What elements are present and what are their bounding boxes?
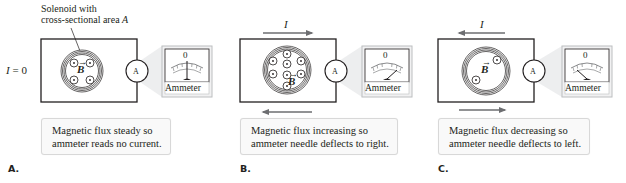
current-label-b: I bbox=[284, 19, 288, 30]
field-line-dot bbox=[86, 59, 94, 67]
panel-label-c: C. bbox=[438, 163, 449, 174]
current-label-c: I bbox=[480, 19, 484, 30]
meter-name-label: Ammeter bbox=[165, 83, 201, 94]
caption-line-2: ammeter reads no current. bbox=[52, 137, 170, 150]
caption-c: Magnetic flux decreasing so ammeter need… bbox=[438, 118, 590, 155]
solenoid bbox=[263, 46, 311, 94]
meter-name-label: Ammeter bbox=[565, 83, 601, 94]
current-zero-label: I = 0 bbox=[6, 65, 27, 76]
caption-line-1: Magnetic flux increasing so bbox=[251, 124, 397, 137]
ammeter-symbol-label: A bbox=[133, 66, 139, 77]
field-line-dot bbox=[70, 76, 78, 84]
caption-line-2: ammeter needle deflects to right. bbox=[251, 137, 397, 150]
annotation-line-2-text: cross-sectional area bbox=[41, 14, 122, 25]
diagram-canvas bbox=[0, 0, 626, 183]
area-variable: A bbox=[122, 14, 128, 25]
meter-zero-label: 0 bbox=[183, 50, 188, 61]
caption-b: Magnetic flux increasing so ammeter need… bbox=[240, 118, 398, 155]
solenoid-annotation: Solenoid with cross-sectional area A bbox=[41, 3, 128, 25]
meter-name-label: Ammeter bbox=[365, 83, 401, 94]
panel-label-a: A. bbox=[8, 163, 19, 174]
panel-c bbox=[438, 33, 612, 110]
ammeter-symbol-label: A bbox=[332, 66, 338, 77]
caption-line-1: Magnetic flux decreasing so bbox=[449, 124, 589, 137]
panel-b bbox=[240, 33, 412, 112]
meter-zero-label: 0 bbox=[583, 50, 588, 61]
meter-zero-label: 0 bbox=[383, 50, 388, 61]
caption-line-2: ammeter needle deflects to left. bbox=[449, 137, 589, 150]
field-vector-label-b: →B bbox=[288, 76, 295, 87]
caption-line-1: Magnetic flux steady so bbox=[52, 124, 170, 137]
caption-a: Magnetic flux steady so ammeter reads no… bbox=[41, 118, 171, 155]
field-vector-label-c: →B bbox=[481, 64, 488, 75]
annotation-line-1: Solenoid with bbox=[41, 3, 128, 14]
panel-label-b: B. bbox=[240, 163, 251, 174]
field-line-dot bbox=[86, 76, 94, 84]
ammeter-symbol-label: A bbox=[530, 66, 536, 77]
field-vector-label-a: →B bbox=[77, 64, 84, 75]
annotation-line-2: cross-sectional area A bbox=[41, 14, 128, 25]
